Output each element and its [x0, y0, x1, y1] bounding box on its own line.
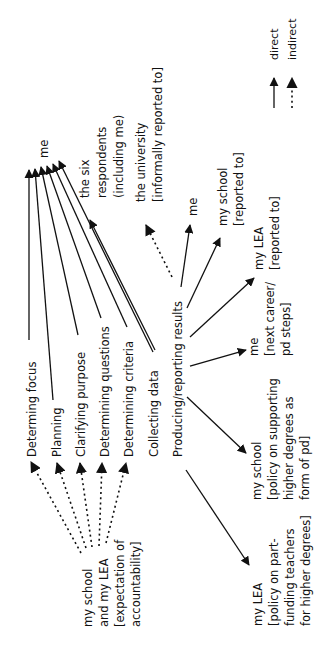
my-school-policy-line-1: my school — [250, 441, 264, 500]
direct-arrows-from-results — [181, 225, 254, 565]
stage-determining-questions: Determining questions — [98, 326, 112, 457]
target-my-lea-policy: my LEA [policy on part- funding teachers… — [251, 515, 313, 626]
university-line-1: the university — [134, 122, 148, 202]
source-line-3: [expectation of — [113, 539, 127, 627]
me-career-line-2: [next career/ — [263, 282, 277, 356]
arrow-results-to-my-school-policy — [187, 397, 246, 453]
my-school-policy-line-4: form of pd] — [298, 436, 312, 500]
my-school-policy-line-2: [policy on supporting — [266, 378, 280, 500]
source-node: my school and my LEA [expectation of acc… — [81, 539, 143, 627]
stage-collecting-data: Collecting data — [147, 370, 161, 457]
target-my-school-report: my school [reported to] — [216, 152, 246, 226]
stage-determing-focus: Determing focus — [25, 362, 39, 457]
six-respondents-line-1: the six — [78, 159, 92, 198]
me-career-line-3: pd steps] — [279, 302, 293, 356]
arrow-results-to-me — [181, 225, 190, 287]
six-respondents-line-2: respondents — [95, 127, 109, 198]
me-career-line-1: me — [247, 338, 261, 356]
source-line-1: my school — [81, 568, 95, 627]
target-me-career: me [next career/ pd steps] — [247, 282, 293, 356]
my-lea-report-line-1: my LEA — [252, 227, 266, 270]
indirect-arrow-questions — [99, 463, 102, 546]
legend: direct indirect — [268, 18, 299, 108]
arrow-results-to-my-lea-policy — [186, 470, 249, 565]
arrow-questions-to-me — [47, 166, 101, 318]
indirect-arrow-purpose — [80, 463, 92, 547]
source-line-2: and my LEA — [97, 558, 111, 627]
my-lea-policy-line-3: funding teachers — [283, 529, 297, 626]
indirect-arrow-to-university — [146, 225, 172, 277]
my-school-report-line-2: [reported to] — [232, 152, 246, 226]
indirect-arrow-planning — [57, 463, 86, 548]
indirect-arrows-to-stages — [31, 462, 126, 553]
evaluation-flow-diagram: direct indirect my school and my LEA [ex… — [0, 0, 332, 647]
my-lea-policy-line-1: my LEA — [251, 583, 265, 626]
source-line-4: accountability] — [129, 541, 143, 627]
target-university: the university [informally reported to] — [134, 67, 165, 202]
my-lea-policy-line-2: [policy on part- — [267, 538, 281, 626]
target-my-lea-report: my LEA [reported to] — [252, 196, 282, 270]
six-respondents-line-3: (including me) — [112, 115, 126, 198]
stage-determining-criteria: Determining criteria — [122, 341, 136, 457]
indirect-arrow-focus — [31, 462, 81, 553]
stage-planning: Planning — [50, 407, 64, 457]
my-lea-report-line-2: [reported to] — [268, 196, 282, 270]
indirect-arrow-criteria — [106, 463, 126, 543]
arrow-results-to-me-career — [190, 350, 246, 366]
my-school-report-line-1: my school — [216, 167, 230, 226]
stage-producing-reporting-results: Producing/reporting results — [171, 301, 185, 457]
legend-indirect-label: indirect — [286, 18, 299, 60]
stage-clarifying-purpose: Clarifying purpose — [74, 352, 88, 457]
my-lea-policy-line-4: for higher degrees] — [299, 515, 313, 626]
university-line-2: [informally reported to] — [151, 67, 165, 202]
target-my-school-policy: my school [policy on supporting higher d… — [250, 378, 312, 500]
target-me-report: me — [186, 198, 200, 216]
my-school-policy-line-3: higher degrees as — [282, 396, 296, 500]
stages: Determing focus Planning Clarifying purp… — [25, 301, 185, 457]
arrow-results-to-my-school — [187, 238, 220, 308]
target-six-respondents: the six respondents (including me) — [78, 115, 126, 198]
target-me-top: me — [37, 140, 51, 158]
legend-direct-label: direct — [268, 28, 281, 60]
arrow-results-to-my-lea — [190, 278, 254, 337]
